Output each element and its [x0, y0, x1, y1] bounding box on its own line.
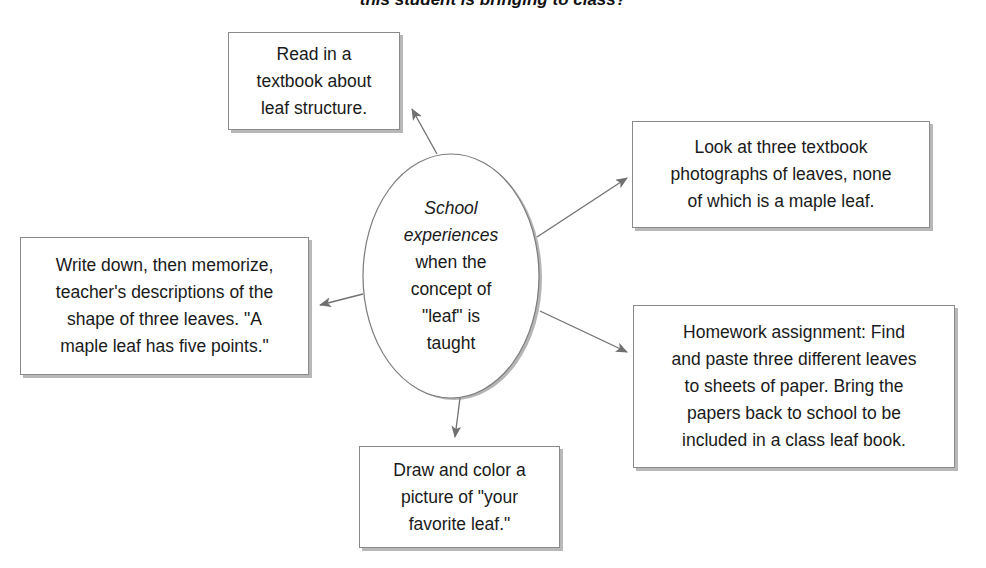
box-draw-leaf: Draw and color a picture of "your favori… [359, 446, 560, 548]
box-line: favorite leaf." [393, 511, 525, 538]
box-line: of which is a maple leaf. [671, 188, 892, 215]
box-textbook-photos: Look at three textbook photographs of le… [632, 121, 930, 228]
arrow-to-textbook-reading [412, 109, 437, 154]
center-line: taught [427, 330, 476, 357]
box-line: picture of "your [393, 484, 525, 511]
box-line: photographs of leaves, none [671, 161, 892, 188]
center-line: experiences [404, 222, 498, 249]
arrow-to-homework [540, 311, 627, 352]
center-line: when the [415, 249, 486, 276]
center-line: "leaf" is [422, 303, 480, 330]
arrow-to-memorize-descriptions [320, 294, 363, 305]
box-memorize-descriptions: Write down, then memorize, teacher's des… [20, 237, 309, 375]
box-line: shape of three leaves. "A [56, 306, 274, 333]
center-line: School [424, 195, 478, 222]
arrow-to-textbook-photos [537, 178, 627, 237]
center-concept: School experiences when the concept of "… [363, 154, 539, 398]
box-line: Draw and color a [393, 457, 525, 484]
box-line: leaf structure. [257, 95, 372, 122]
box-line: Write down, then memorize, [56, 252, 274, 279]
box-line: Look at three textbook [671, 134, 892, 161]
box-line: teacher's descriptions of the [56, 279, 274, 306]
box-line: maple leaf has five points." [56, 333, 274, 360]
box-line: included in a class leaf book. [672, 427, 917, 454]
box-textbook-reading: Read in a textbook about leaf structure. [228, 32, 400, 130]
center-line: concept of [411, 276, 492, 303]
box-homework: Homework assignment: Find and paste thre… [633, 305, 955, 468]
box-line: papers back to school to be [672, 400, 917, 427]
box-line: textbook about [257, 68, 372, 95]
box-line: to sheets of paper. Bring the [672, 373, 917, 400]
box-line: and paste three different leaves [672, 346, 917, 373]
box-line: Read in a [257, 41, 372, 68]
box-line: Homework assignment: Find [672, 319, 917, 346]
arrow-to-draw-leaf [455, 398, 460, 437]
